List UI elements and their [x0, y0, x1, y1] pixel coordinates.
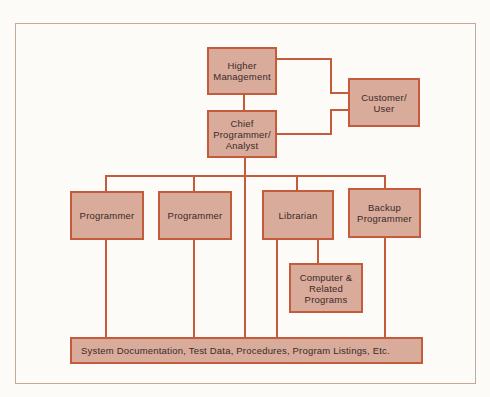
- connector-line: [105, 175, 386, 177]
- node-programmer-1: Programmer: [70, 191, 144, 240]
- connector-line: [275, 58, 332, 60]
- connector-line: [275, 133, 332, 135]
- node-librarian: Librarian: [262, 190, 334, 240]
- connector-line: [317, 239, 319, 264]
- node-programmer-2: Programmer: [158, 191, 232, 240]
- connector-line: [330, 92, 349, 94]
- connector-line: [105, 175, 107, 192]
- node-customer-user: Customer/ User: [348, 78, 420, 127]
- connector-line: [330, 58, 332, 94]
- connector-line: [330, 109, 349, 111]
- connector-line: [105, 239, 107, 338]
- connector-line: [296, 175, 298, 191]
- connector-line: [276, 239, 278, 338]
- node-documentation: System Documentation, Test Data, Procedu…: [70, 337, 423, 364]
- connector-line: [384, 237, 386, 338]
- node-higher-management: Higher Management: [207, 47, 277, 95]
- connector-line: [193, 175, 195, 192]
- connector-line: [330, 109, 332, 135]
- node-backup-programmer: Backup Programmer: [348, 188, 421, 238]
- node-chief-programmer: Chief Programmer/ Analyst: [207, 110, 277, 158]
- connector-line: [243, 94, 245, 111]
- connector-line: [384, 175, 386, 189]
- connector-line: [244, 157, 246, 338]
- connector-line: [193, 239, 195, 338]
- node-computer-programs: Computer & Related Programs: [289, 263, 363, 313]
